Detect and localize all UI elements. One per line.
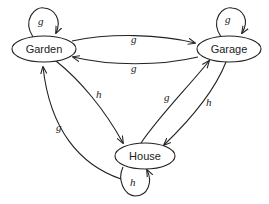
edge-label-garden-garage: g	[131, 33, 137, 45]
edge-label-house-garden: g	[56, 121, 62, 133]
node-garden: Garden	[12, 36, 76, 62]
edge-label-garden-self: g	[38, 15, 44, 27]
node-label-garage: Garage	[211, 43, 248, 55]
node-house: House	[115, 143, 175, 169]
node-garage: Garage	[197, 36, 261, 62]
edge-label-garage-house: h	[206, 96, 212, 108]
edge-label-house-self: h	[130, 176, 136, 188]
node-label-garden: Garden	[26, 43, 63, 55]
edge-house-to-garden	[43, 67, 121, 179]
state-diagram: g g h g g h g h g Garden Garage House	[0, 0, 269, 204]
edge-label-house-garage: g	[164, 91, 170, 103]
edge-garage-to-house	[164, 62, 226, 145]
node-label-house: House	[129, 150, 161, 162]
edge-label-garage-garden: g	[131, 62, 137, 74]
edge-house-to-garage	[141, 61, 209, 143]
edge-label-garage-self: g	[225, 13, 231, 25]
edge-label-garden-house: h	[96, 88, 102, 100]
edge-garage-self-loop	[217, 8, 246, 37]
edge-garden-to-house	[56, 61, 123, 143]
